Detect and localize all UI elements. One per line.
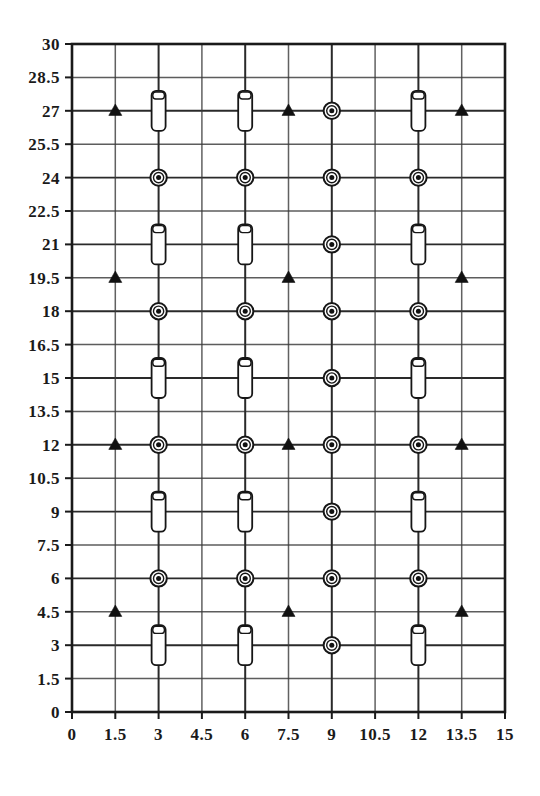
y-tick-label: 18 bbox=[42, 302, 60, 321]
marker-cylinder-cap bbox=[153, 359, 165, 366]
marker-triangle bbox=[282, 605, 295, 616]
marker-bullseye-center-dot bbox=[416, 442, 421, 447]
y-tick-label: 19.5 bbox=[28, 269, 60, 288]
marker-bullseye-center-dot bbox=[329, 442, 334, 447]
y-tick-label: 13.5 bbox=[28, 402, 60, 421]
y-tick-label: 30 bbox=[42, 35, 60, 54]
marker-cylinder-cap bbox=[153, 92, 165, 99]
y-tick-label: 7.5 bbox=[37, 536, 60, 555]
marker-triangle bbox=[109, 438, 122, 449]
marker-bullseye-center-dot bbox=[329, 643, 334, 648]
marker-cylinder-cap bbox=[239, 92, 251, 99]
x-tick-label: 10.5 bbox=[359, 725, 391, 744]
x-tick-label: 12 bbox=[409, 725, 427, 744]
y-tick-label: 12 bbox=[42, 436, 60, 455]
y-tick-label: 16.5 bbox=[28, 336, 60, 355]
x-tick-label: 13.5 bbox=[446, 725, 478, 744]
marker-triangle bbox=[109, 271, 122, 282]
marker-triangle bbox=[455, 104, 468, 115]
marker-cylinder-cap bbox=[153, 493, 165, 500]
marker-triangle bbox=[282, 104, 295, 115]
marker-cylinder-cap bbox=[153, 626, 165, 633]
y-tick-label: 6 bbox=[51, 569, 60, 588]
marker-cylinder-cap bbox=[239, 359, 251, 366]
y-tick-label: 4.5 bbox=[37, 603, 60, 622]
x-tick-label: 9 bbox=[327, 725, 336, 744]
marker-bullseye-center-dot bbox=[156, 175, 161, 180]
x-tick-label: 3 bbox=[154, 725, 163, 744]
marker-triangle bbox=[455, 605, 468, 616]
marker-bullseye-center-dot bbox=[156, 309, 161, 314]
y-tick-label: 15 bbox=[42, 369, 60, 388]
marker-bullseye-center-dot bbox=[329, 576, 334, 581]
y-tick-label: 25.5 bbox=[28, 135, 60, 154]
marker-triangle bbox=[109, 104, 122, 115]
marker-triangle bbox=[109, 605, 122, 616]
marker-bullseye-center-dot bbox=[156, 576, 161, 581]
y-tick-label: 22.5 bbox=[28, 202, 60, 221]
marker-bullseye-center-dot bbox=[329, 309, 334, 314]
y-tick-label: 24 bbox=[42, 169, 60, 188]
x-tick-label: 6 bbox=[241, 725, 250, 744]
marker-bullseye-center-dot bbox=[329, 242, 334, 247]
marker-cylinder-cap bbox=[413, 226, 425, 233]
marker-triangle bbox=[455, 438, 468, 449]
marker-cylinder-cap bbox=[239, 493, 251, 500]
marker-bullseye-center-dot bbox=[416, 576, 421, 581]
marker-bullseye-center-dot bbox=[416, 175, 421, 180]
chart-figure: 01.534.567.5910.51213.51516.51819.52122.… bbox=[0, 0, 540, 796]
y-tick-label: 0 bbox=[51, 703, 60, 722]
marker-cylinder-cap bbox=[413, 626, 425, 633]
y-tick-label: 3 bbox=[51, 636, 60, 655]
marker-bullseye-center-dot bbox=[329, 376, 334, 381]
marker-triangle bbox=[282, 438, 295, 449]
scatter-plot-canvas: 01.534.567.5910.51213.51516.51819.52122.… bbox=[0, 0, 540, 796]
marker-cylinder-cap bbox=[239, 226, 251, 233]
marker-bullseye-center-dot bbox=[329, 175, 334, 180]
y-tick-label: 28.5 bbox=[28, 68, 60, 87]
marker-triangle bbox=[282, 271, 295, 282]
y-axis-tick-labels: 01.534.567.5910.51213.51516.51819.52122.… bbox=[28, 35, 60, 722]
axis-tick-marks bbox=[65, 44, 505, 719]
marker-bullseye-center-dot bbox=[243, 175, 248, 180]
marker-bullseye-center-dot bbox=[243, 442, 248, 447]
x-tick-label: 0 bbox=[68, 725, 77, 744]
y-tick-label: 10.5 bbox=[28, 469, 60, 488]
marker-cylinder-cap bbox=[413, 359, 425, 366]
x-tick-label: 15 bbox=[496, 725, 514, 744]
marker-cylinder-cap bbox=[153, 226, 165, 233]
x-tick-label: 1.5 bbox=[104, 725, 127, 744]
marker-cylinder-cap bbox=[413, 92, 425, 99]
marker-cylinder-cap bbox=[239, 626, 251, 633]
marker-bullseye-center-dot bbox=[243, 309, 248, 314]
marker-cylinder-cap bbox=[413, 493, 425, 500]
marker-bullseye-center-dot bbox=[329, 509, 334, 514]
x-tick-label: 4.5 bbox=[191, 725, 214, 744]
marker-triangle bbox=[455, 271, 468, 282]
marker-bullseye-center-dot bbox=[416, 309, 421, 314]
y-tick-label: 27 bbox=[42, 102, 60, 121]
y-tick-label: 1.5 bbox=[37, 670, 60, 689]
x-tick-label: 7.5 bbox=[277, 725, 300, 744]
y-tick-label: 21 bbox=[42, 235, 60, 254]
marker-bullseye-center-dot bbox=[156, 442, 161, 447]
y-tick-label: 9 bbox=[51, 503, 60, 522]
x-axis-tick-labels: 01.534.567.5910.51213.515 bbox=[68, 725, 515, 744]
marker-bullseye-center-dot bbox=[243, 576, 248, 581]
marker-bullseye-center-dot bbox=[329, 108, 334, 113]
